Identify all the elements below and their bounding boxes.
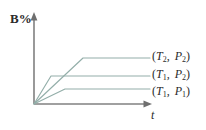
x-axis-label: t [151,109,154,121]
curve-label-t1-p2: (T1, P2) [152,68,190,80]
temperature-subscript: 1 [163,90,167,99]
paren-close: ) [186,84,190,98]
label-comma: , [167,49,172,63]
label-comma: , [167,84,172,98]
temperature-subscript: 1 [163,73,167,82]
pressure-symbol: P [175,84,182,98]
x-axis-arrow-icon [144,101,153,108]
temperature-symbol: T [156,84,163,98]
y-axis-label: B% [10,12,32,25]
curve-t2-p2 [34,58,150,104]
pressure-subscript: 1 [182,90,186,99]
pressure-subscript: 2 [182,73,186,82]
temperature-symbol: T [156,49,163,63]
curve-label-t1-p1: (T1, P1) [152,85,190,97]
reaction-conversion-figure: B% t (T2, P2) (T1, P2) (T1, P1) [0,0,206,130]
temperature-subscript: 2 [163,55,167,64]
paren-close: ) [186,49,190,63]
paren-close: ) [186,67,190,81]
label-comma: , [167,67,172,81]
temperature-symbol: T [156,67,163,81]
x-axis [34,101,152,108]
curve-label-t2-p2: (T2, P2) [152,50,190,62]
pressure-symbol: P [175,67,182,81]
curve-t1-p2 [34,76,150,104]
curve-t1-p1 [34,89,150,104]
pressure-symbol: P [175,49,182,63]
pressure-subscript: 2 [182,55,186,64]
